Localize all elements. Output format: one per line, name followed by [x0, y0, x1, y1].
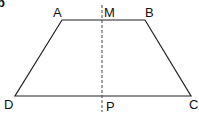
trapezoid-ABCD — [15, 20, 191, 96]
vertex-label-C: C — [189, 98, 198, 111]
point-label-P: P — [106, 100, 115, 113]
vertex-label-B: B — [145, 6, 154, 19]
vertex-label-D: D — [4, 98, 13, 111]
point-label-M: M — [104, 6, 115, 19]
trapezoid-drawing — [0, 0, 199, 113]
trapezoid-figure: b A M B D P C — [0, 0, 199, 113]
vertex-label-A: A — [53, 6, 62, 19]
